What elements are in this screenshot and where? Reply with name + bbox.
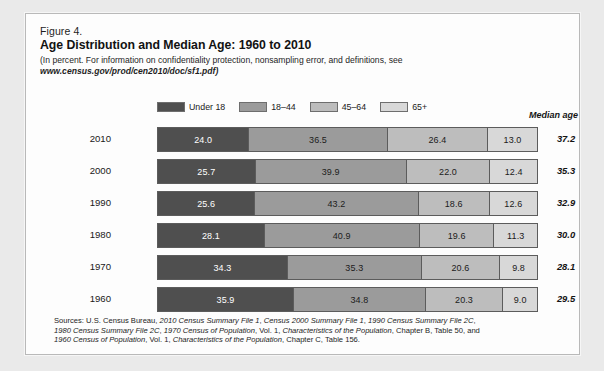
bar-segment-value: 43.2 [328, 199, 346, 209]
legend-item-1[interactable]: 18–44 [239, 102, 295, 112]
bar-segment-value: 18.6 [445, 199, 463, 209]
bar-segment-value: 35.9 [217, 295, 235, 305]
bar-segment-under-18: 25.6 [158, 192, 255, 215]
legend-label-2: 45–64 [342, 102, 366, 112]
bar-segment-18-44: 36.5 [249, 128, 387, 151]
bar-segment-under-18: 28.1 [158, 224, 265, 247]
bar-segment-65-: 9.8 [500, 256, 537, 279]
chart-legend: Under 1818–4445–6465+ [157, 102, 427, 112]
median-age-value: 32.9 [540, 197, 592, 208]
source-title-1: 2010 Census Summary File 1 [160, 316, 260, 325]
median-age-value: 30.0 [540, 229, 592, 240]
legend-label-1: 18–44 [271, 102, 295, 112]
year-axis-label: 2000 [63, 165, 111, 176]
stacked-bar: 25.643.218.612.6 [157, 191, 538, 216]
legend-label-0: Under 18 [189, 102, 225, 112]
bar-segment-45-64: 20.6 [422, 256, 500, 279]
bar-segment-value: 28.1 [202, 231, 220, 241]
bar-segment-value: 11.3 [507, 231, 524, 241]
bar-segment-value: 13.0 [504, 135, 522, 145]
bar-segment-value: 36.5 [309, 135, 327, 145]
bar-segment-value: 24.0 [194, 135, 212, 145]
bar-segment-value: 9.0 [514, 295, 527, 305]
chart-row: 201024.036.526.413.037.2 [26, 124, 579, 156]
legend-swatch-icon-3 [380, 102, 408, 112]
legend-swatch-icon-2 [310, 102, 338, 112]
bar-segment-65-: 11.3 [494, 224, 537, 247]
bar-segment-45-64: 18.6 [419, 192, 490, 215]
bar-segment-value: 12.6 [504, 199, 522, 209]
bar-segment-value: 35.3 [345, 263, 363, 273]
bar-segment-under-18: 35.9 [158, 288, 294, 311]
bar-segment-18-44: 35.3 [288, 256, 422, 279]
legend-swatch-icon-0 [157, 102, 185, 112]
figure-source-url: www.census.gov/prod/cen2010/doc/sf1.pdf) [40, 66, 218, 76]
bar-segment-value: 40.9 [333, 231, 351, 241]
bar-segment-value: 22.0 [439, 167, 457, 177]
sources-line-3: 1960 Census of Population, Vol. 1, Chara… [54, 335, 560, 345]
sources-prefix: Sources: U.S. Census Bureau, [54, 316, 160, 325]
figure-frame: Figure 4. Age Distribution and Median Ag… [25, 13, 580, 355]
chart-row: 200025.739.922.012.435.3 [26, 156, 579, 188]
sources-note: Sources: U.S. Census Bureau, 2010 Census… [54, 316, 560, 345]
year-axis-label: 2010 [63, 133, 111, 144]
bar-segment-value: 12.4 [505, 167, 523, 177]
bar-segment-65-: 9.0 [503, 288, 537, 311]
median-age-value: 28.1 [540, 261, 592, 272]
stacked-bar: 28.140.919.611.3 [157, 223, 538, 248]
chart-row: 198028.140.919.611.330.0 [26, 220, 579, 252]
chart-row: 197034.335.320.69.828.1 [26, 252, 579, 284]
bar-segment-value: 34.8 [350, 295, 368, 305]
legend-item-2[interactable]: 45–64 [310, 102, 366, 112]
bar-segment-18-44: 39.9 [256, 160, 407, 183]
bar-segment-value: 19.6 [448, 231, 466, 241]
figure-title: Age Distribution and Median Age: 1960 to… [40, 38, 565, 52]
bar-segment-value: 20.3 [455, 295, 473, 305]
sources-line-2: 1980 Census Summary File 2C, 1970 Census… [54, 326, 560, 336]
source-title-6: Characteristics of the Population [282, 326, 391, 335]
legend-item-0[interactable]: Under 18 [157, 102, 225, 112]
figure-subtitle: (In percent. For information on confiden… [40, 55, 510, 77]
source-title-2: Census 2000 Summary File 1 [264, 316, 364, 325]
median-age-value: 37.2 [540, 133, 592, 144]
source-title-5: 1970 Census of Population [164, 326, 255, 335]
figure-number: Figure 4. [40, 25, 565, 37]
bar-segment-45-64: 20.3 [426, 288, 503, 311]
figure-page: Figure 4. Age Distribution and Median Ag… [0, 0, 604, 371]
sources-line-1: Sources: U.S. Census Bureau, 2010 Census… [54, 316, 560, 326]
median-age-value: 35.3 [540, 165, 592, 176]
bar-segment-value: 39.9 [322, 167, 340, 177]
legend-swatch-icon-1 [239, 102, 267, 112]
stacked-bar: 25.739.922.012.4 [157, 159, 538, 184]
bar-segment-under-18: 25.7 [158, 160, 256, 183]
stacked-bar: 24.036.526.413.0 [157, 127, 538, 152]
source-title-3: 1990 Census Summary File 2C [368, 316, 474, 325]
median-age-value: 29.5 [540, 293, 592, 304]
source-title-8: Characteristics of the Population [173, 335, 282, 344]
bar-segment-value: 26.4 [428, 135, 446, 145]
legend-label-3: 65+ [412, 102, 427, 112]
bar-segment-45-64: 19.6 [420, 224, 495, 247]
bar-segment-18-44: 43.2 [255, 192, 418, 215]
legend-item-3[interactable]: 65+ [380, 102, 427, 112]
chart-row: 199025.643.218.612.632.9 [26, 188, 579, 220]
source-title-4: 1980 Census Summary File 2C [54, 326, 160, 335]
chart-plot-area: 201024.036.526.413.037.2200025.739.922.0… [26, 124, 579, 316]
bar-segment-45-64: 26.4 [388, 128, 488, 151]
chart-row: 196035.934.820.39.029.5 [26, 284, 579, 316]
year-axis-label: 1960 [63, 293, 111, 304]
bar-segment-18-44: 40.9 [265, 224, 420, 247]
bar-segment-under-18: 34.3 [158, 256, 288, 279]
bar-segment-value: 20.6 [451, 263, 469, 273]
bar-segment-65-: 12.6 [490, 192, 537, 215]
year-axis-label: 1990 [63, 197, 111, 208]
bar-segment-18-44: 34.8 [294, 288, 426, 311]
stacked-bar: 34.335.320.69.8 [157, 255, 538, 280]
year-axis-label: 1980 [63, 229, 111, 240]
bar-segment-value: 25.7 [197, 167, 215, 177]
source-title-7: 1960 Census of Population [54, 335, 145, 344]
bar-segment-65-: 13.0 [488, 128, 537, 151]
figure-subtitle-text: (In percent. For information on confiden… [40, 55, 403, 65]
bar-segment-value: 9.8 [512, 263, 525, 273]
bar-segment-under-18: 24.0 [158, 128, 249, 151]
